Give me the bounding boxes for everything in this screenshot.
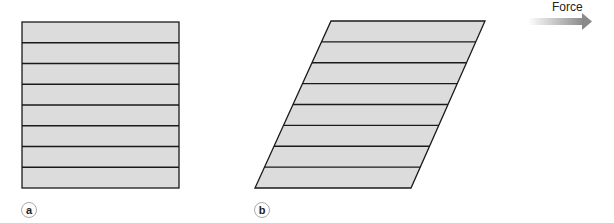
panel-b-label: b — [254, 202, 270, 218]
panel-b-sheared-stack — [255, 21, 485, 188]
force-label: Force — [552, 0, 583, 14]
diagram-canvas — [0, 0, 614, 223]
panel-a-stack — [22, 22, 179, 188]
panel-a-label: a — [21, 202, 37, 218]
force-arrow-icon — [528, 13, 592, 30]
